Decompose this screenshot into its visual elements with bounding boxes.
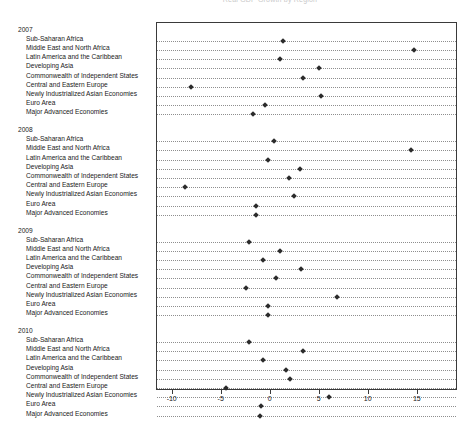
data-point — [265, 157, 271, 163]
region-label: Major Advanced Economies — [26, 108, 108, 116]
data-point — [273, 276, 279, 282]
region-label: Central and Eastern Europe — [26, 81, 108, 89]
x-axis-tick — [319, 390, 320, 394]
data-point — [287, 175, 293, 181]
data-point — [298, 266, 304, 272]
group-year-label: 2009 — [18, 227, 33, 235]
region-label: Latin America and the Caribbean — [26, 354, 122, 362]
region-label: Newly Industrialized Asian Economies — [26, 391, 137, 399]
data-point — [318, 93, 324, 99]
region-label: Commonwealth of Independent States — [26, 272, 138, 280]
data-point — [408, 148, 414, 154]
region-label: Latin America and the Caribbean — [26, 154, 122, 162]
gridline — [157, 169, 456, 170]
x-axis-tick — [270, 390, 271, 394]
plot-area — [157, 23, 456, 389]
gridline — [157, 278, 456, 279]
gridline — [157, 68, 456, 69]
x-axis-tick-label: 15 — [413, 395, 421, 402]
region-label: Major Advanced Economies — [26, 209, 108, 217]
gridline — [157, 297, 456, 298]
x-axis-tick-label: 0 — [268, 395, 272, 402]
data-point — [188, 84, 194, 90]
gridline — [157, 215, 456, 216]
region-label: Developing Asia — [26, 263, 73, 271]
data-point — [260, 358, 266, 364]
data-point — [287, 376, 293, 382]
x-axis-tick — [172, 390, 173, 394]
region-label: Middle East and North Africa — [26, 345, 110, 353]
gridline — [157, 351, 456, 352]
gridline — [157, 315, 456, 316]
gridline — [157, 187, 456, 188]
regional-growth-scatter-chart: Real GDP Growth by Region 2007Sub-Sahara… — [0, 0, 475, 424]
x-axis-tick — [417, 390, 418, 394]
data-point — [265, 303, 271, 309]
gridline — [157, 416, 456, 417]
region-label: Euro Area — [26, 200, 55, 208]
data-point — [297, 166, 303, 172]
gridline — [157, 379, 456, 380]
data-point — [253, 212, 259, 218]
gridline — [157, 360, 456, 361]
gridline — [157, 105, 456, 106]
gridline — [157, 87, 456, 88]
data-point — [250, 112, 256, 118]
data-point — [300, 348, 306, 354]
x-axis-tick — [368, 390, 369, 394]
gridline — [157, 242, 456, 243]
region-label: Major Advanced Economies — [26, 309, 108, 317]
region-label: Latin America and the Caribbean — [26, 254, 122, 262]
data-point — [243, 285, 249, 291]
region-label: Middle East and North Africa — [26, 144, 110, 152]
region-label: Central and Eastern Europe — [26, 382, 108, 390]
category-label-column: 2007Sub-Saharan AfricaMiddle East and No… — [0, 22, 156, 390]
gridline — [157, 251, 456, 252]
data-point — [246, 239, 252, 245]
group-year-label: 2010 — [18, 327, 33, 335]
gridline — [157, 160, 456, 161]
data-point — [411, 47, 417, 53]
data-point — [281, 38, 287, 44]
region-label: Major Advanced Economies — [26, 410, 108, 418]
data-point — [271, 138, 277, 144]
region-label: Sub-Saharan Africa — [26, 35, 83, 43]
region-label: Newly Industrialized Asian Economies — [26, 291, 137, 299]
x-axis-tick — [221, 390, 222, 394]
region-label: Central and Eastern Europe — [26, 282, 108, 290]
group-year-label: 2008 — [18, 126, 33, 134]
data-point — [277, 56, 283, 62]
plot-panel — [156, 22, 457, 390]
region-label: Middle East and North Africa — [26, 44, 110, 52]
x-axis-tick-label: 10 — [364, 395, 372, 402]
gridline — [157, 41, 456, 42]
gridline — [157, 178, 456, 179]
data-point — [335, 294, 341, 300]
gridline — [157, 306, 456, 307]
region-label: Latin America and the Caribbean — [26, 53, 122, 61]
region-label: Commonwealth of Independent States — [26, 72, 138, 80]
gridline — [157, 269, 456, 270]
x-axis-tick-label: -10 — [167, 395, 177, 402]
data-point — [300, 75, 306, 81]
gridline — [157, 78, 456, 79]
region-label: Commonwealth of Independent States — [26, 172, 138, 180]
data-point — [265, 312, 271, 318]
region-label: Central and Eastern Europe — [26, 181, 108, 189]
gridline — [157, 370, 456, 371]
x-axis: -10-5051015 — [156, 390, 457, 414]
gridline — [157, 114, 456, 115]
data-point — [260, 257, 266, 263]
data-point — [316, 66, 322, 72]
x-axis-tick-label: 5 — [317, 395, 321, 402]
region-label: Euro Area — [26, 400, 55, 408]
region-label: Newly Industrialized Asian Economies — [26, 90, 137, 98]
data-point — [277, 248, 283, 254]
gridline — [157, 59, 456, 60]
region-label: Euro Area — [26, 99, 55, 107]
region-label: Sub-Saharan Africa — [26, 336, 83, 344]
gridline — [157, 206, 456, 207]
region-label: Newly Industrialized Asian Economies — [26, 190, 137, 198]
chart-title: Real GDP Growth by Region — [150, 0, 390, 4]
data-point — [246, 339, 252, 345]
